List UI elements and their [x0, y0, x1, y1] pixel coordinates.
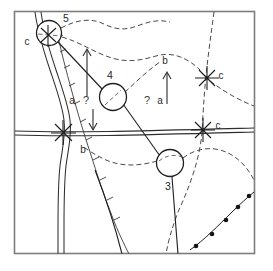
bead-line-path: [190, 192, 254, 250]
arrow-down-left: [89, 109, 97, 130]
dotted-bead-line: [190, 192, 254, 250]
bead-dot: [224, 218, 229, 223]
star-marker-right-lower: [191, 118, 215, 142]
road-edge-south: [15, 132, 255, 136]
marker-label-c-right-upper: c: [219, 70, 224, 81]
arrow-up-right: [163, 72, 171, 104]
contact-east-lower: [210, 81, 254, 106]
hachure-tick: [93, 157, 99, 160]
annotation-q-right: ?: [144, 94, 150, 106]
hachure-tick: [114, 217, 120, 220]
unit-label-b-upper-right: b: [162, 55, 168, 66]
contact-northeast: [62, 37, 200, 70]
traverse-site3-south: [172, 177, 178, 254]
star-marker-left-crossing: [51, 120, 76, 145]
site-label-4: 4: [107, 69, 113, 81]
star-marker-right-upper: [195, 66, 219, 90]
contact-north: [61, 20, 170, 29]
contact-site3-east: [183, 149, 254, 180]
traverse-lines: [58, 42, 178, 254]
annotation-q-left: ?: [83, 94, 89, 106]
bead-dot: [236, 205, 241, 210]
hachure-tick: [80, 119, 86, 122]
bead-dot: [247, 194, 252, 199]
map-canvas: 5 4 3 c b c c b a ? ? a: [0, 0, 273, 271]
hachure-tick: [107, 197, 113, 200]
annotation-a-left: a: [69, 95, 75, 106]
site-label-5: 5: [63, 12, 69, 24]
hachure-tick: [86, 137, 92, 140]
contact-site4-ne: [125, 62, 160, 92]
hachured-contact-along-river: [56, 26, 129, 254]
annotation-a-right: a: [157, 95, 163, 106]
marker-label-c-top-left: c: [25, 36, 30, 47]
marker-label-c-right-lower: c: [216, 120, 221, 131]
geologic-sketch-map: 5 4 3 c b c c b a ? ? a: [0, 0, 273, 271]
site-circle-3[interactable]: [157, 150, 184, 177]
site-circle-5[interactable]: [37, 21, 62, 46]
hachure-baseline: [56, 26, 129, 254]
bead-dot: [194, 244, 199, 249]
bead-dot: [210, 232, 215, 237]
site-circle-4[interactable]: [100, 84, 127, 111]
site-label-3: 3: [165, 180, 171, 192]
traverse-southwest: [95, 170, 122, 254]
marker-label-b-left-crossing: b: [80, 144, 86, 155]
hachure-tick: [100, 177, 106, 180]
arrow-up-left: [83, 49, 91, 96]
